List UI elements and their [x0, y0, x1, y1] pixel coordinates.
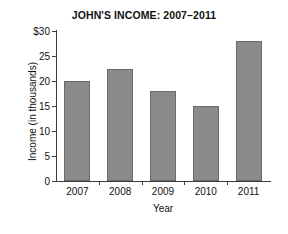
- bar-slot: [142, 31, 185, 181]
- y-tick-label: 20: [39, 76, 50, 87]
- bar-slot: [184, 31, 227, 181]
- y-tick-mark: [52, 81, 56, 82]
- y-tick-mark: [52, 131, 56, 132]
- y-tick-mark: [52, 181, 56, 182]
- bar-slot: [227, 31, 270, 181]
- y-tick-mark: [52, 56, 56, 57]
- x-axis-tick-labels: 20072008200920102011: [56, 186, 270, 197]
- bar-2008[interactable]: [107, 69, 133, 182]
- chart-title: JOHN'S INCOME: 2007–2011: [0, 9, 288, 21]
- x-tick-label-2007: 2007: [56, 186, 99, 197]
- bar-slot: [99, 31, 142, 181]
- x-tick-mark: [227, 181, 228, 185]
- bar-2007[interactable]: [64, 81, 90, 181]
- x-tick-label-2011: 2011: [227, 186, 270, 197]
- y-tick-mark: [52, 31, 56, 32]
- y-tick-mark: [52, 106, 56, 107]
- plot-area: $302520151050: [56, 31, 270, 181]
- bar-2010[interactable]: [193, 106, 219, 181]
- y-tick-label: $30: [33, 26, 50, 37]
- x-axis-title: Year: [56, 203, 270, 214]
- x-tick-label-2010: 2010: [184, 186, 227, 197]
- x-tick-label-2008: 2008: [99, 186, 142, 197]
- y-tick-mark: [52, 156, 56, 157]
- bar-2011[interactable]: [236, 41, 262, 181]
- x-tick-mark: [142, 181, 143, 185]
- bar-2009[interactable]: [150, 91, 176, 181]
- bar-series: [56, 31, 270, 181]
- x-tick-mark: [99, 181, 100, 185]
- x-axis-line: [56, 181, 271, 182]
- y-tick-label: 10: [39, 126, 50, 137]
- y-tick-label: 15: [39, 101, 50, 112]
- y-tick-label: 0: [44, 176, 50, 187]
- y-axis-title: Income (in thousands): [27, 37, 38, 187]
- x-tick-mark: [184, 181, 185, 185]
- y-tick-label: 5: [44, 151, 50, 162]
- x-tick-label-2009: 2009: [142, 186, 185, 197]
- y-tick-label: 25: [39, 51, 50, 62]
- bar-chart: JOHN'S INCOME: 2007–2011 Income (in thou…: [0, 0, 288, 234]
- bar-slot: [56, 31, 99, 181]
